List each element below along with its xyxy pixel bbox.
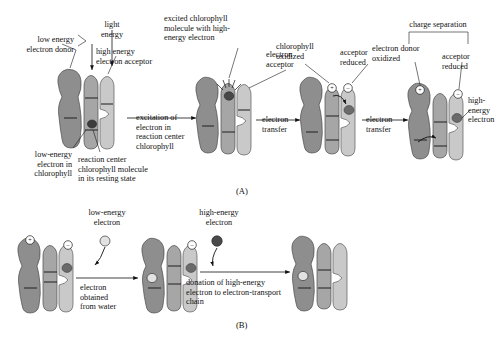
charge-acceptor-reduced: – (344, 84, 353, 93)
label-excited-chlorophyll: excited chlorophyll molecule with high- … (164, 14, 260, 43)
high-energy-electron-ball (212, 236, 222, 246)
complex-a3: + – (300, 77, 355, 156)
complex-a4: + – (408, 83, 463, 160)
charge-chlorophyll-oxidized: + (328, 84, 337, 93)
charge-separation-bracket (409, 32, 468, 44)
caption-etc-donation: donation of high-energy electron to elec… (186, 278, 306, 307)
charge-donor-oxidized: + (416, 86, 425, 95)
caption-electron-transfer-1: electron transfer (262, 115, 306, 134)
low-energy-electron-arrow (95, 247, 105, 265)
charge-acceptor-minus-b: – (64, 241, 73, 250)
charge-donor-plus-b: + (26, 236, 35, 245)
caption-electron-transfer-2: electron transfer (366, 115, 410, 134)
complex-a2 (196, 77, 251, 155)
label-light-energy: light energy (84, 20, 140, 39)
charge-acceptor-reduced-2: – (454, 90, 463, 99)
label-low-energy-electron-in-chlorophyll: low-energy electron in chlorophyll (0, 150, 72, 179)
label-low-energy-electron-b: low-energy electron (76, 208, 138, 227)
label-charge-separation: charge separation (385, 20, 491, 30)
complex-b1: + – (18, 236, 73, 313)
label-low-energy-electron-donor: low energy electron donor (2, 35, 74, 54)
label-chlorophyll-oxidized: chlorophyll oxidized (276, 42, 330, 61)
label-acceptor-reduced-2: acceptor reduced (442, 52, 490, 71)
charge-acceptor-minus-b2: – (188, 241, 197, 250)
figure-canvas: + – + (0, 0, 502, 345)
panel-b-label: (B) (236, 320, 247, 330)
label-high-energy-electron-a: high- energy electron (468, 96, 502, 125)
low-energy-electron-ball (100, 236, 110, 246)
caption-excitation: excitation of electron in reaction cente… (136, 113, 196, 151)
label-reaction-center-resting: reaction center chlorophyll molecule in … (78, 155, 182, 184)
complex-a1 (58, 69, 114, 149)
label-electron-donor-oxidized: electron donor oxidized (372, 44, 438, 63)
label-high-energy-electron-acceptor: high energy electron acceptor (96, 47, 182, 66)
caption-water-electron: electron obtained from water (80, 283, 140, 312)
high-energy-electron-arrow (213, 248, 218, 266)
panel-a-label: (A) (236, 186, 248, 196)
label-high-energy-electron-b: high-energy electron (186, 208, 252, 227)
